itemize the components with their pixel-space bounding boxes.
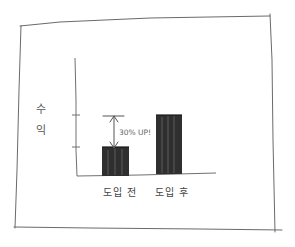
increase-annotation-label: 30% UP! bbox=[119, 128, 151, 137]
bar-before bbox=[102, 147, 129, 176]
y-axis-label-char-1: 수 bbox=[36, 104, 46, 115]
x-axis bbox=[77, 173, 216, 176]
category-label-before: 도입 전 bbox=[103, 184, 137, 199]
y-axis bbox=[72, 58, 80, 176]
category-label-after: 도입 후 bbox=[155, 184, 189, 199]
frame bbox=[14, 14, 282, 232]
y-axis-label-char-2: 익 bbox=[36, 125, 46, 136]
bar-after bbox=[156, 115, 182, 174]
